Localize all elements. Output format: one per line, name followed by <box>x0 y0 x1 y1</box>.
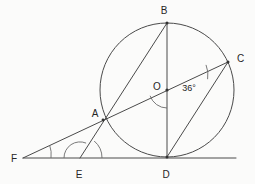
point-label-O: O <box>153 81 161 92</box>
point-label-C: C <box>237 53 244 64</box>
angle-arc-at-E-right <box>94 141 102 158</box>
vertex-dot-O <box>165 88 168 91</box>
vertex-dot-C <box>227 61 230 64</box>
point-label-E: E <box>76 169 83 180</box>
angle-label-36: 36° <box>182 83 196 93</box>
vertex-dot-B <box>166 22 169 25</box>
geometry-diagram: B C O A D E F 36° <box>0 0 255 184</box>
point-label-F: F <box>11 153 17 164</box>
point-label-D: D <box>162 169 169 180</box>
angle-arc-at-E-left <box>64 142 86 158</box>
point-label-A: A <box>92 108 99 119</box>
geometry-canvas: B C O A D E F 36° <box>0 0 255 184</box>
angle-arc-at-F <box>50 145 52 158</box>
vertex-dot-D <box>166 156 169 159</box>
point-label-B: B <box>161 5 168 16</box>
vertex-dot-A <box>102 119 105 122</box>
